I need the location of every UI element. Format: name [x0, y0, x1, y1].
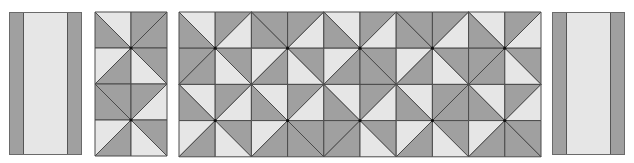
- pinwheel-center-dot: [358, 47, 361, 50]
- right-border-band: [610, 13, 624, 154]
- pinwheel-center-dot: [503, 119, 506, 122]
- pinwheel-center-dot: [214, 119, 217, 122]
- pinwheel-center-dot: [431, 47, 434, 50]
- pinwheel-center-dot: [286, 47, 289, 50]
- pinwheel-center-dot: [431, 119, 434, 122]
- left-strip: [9, 12, 82, 155]
- right-strip: [552, 12, 625, 155]
- pinwheel-center-dot: [214, 47, 217, 50]
- right-border-band: [67, 13, 81, 154]
- pinwheel-center-dot: [129, 118, 132, 121]
- pinwheel-center-dot: [503, 47, 506, 50]
- pinwheel-center-dot: [286, 119, 289, 122]
- narrow-grid: [94, 11, 168, 157]
- pinwheel-center-dot: [129, 46, 132, 49]
- wide-grid: [178, 11, 542, 158]
- left-border-band: [553, 13, 567, 154]
- pinwheel-center-dot: [358, 119, 361, 122]
- left-border-band: [10, 13, 24, 154]
